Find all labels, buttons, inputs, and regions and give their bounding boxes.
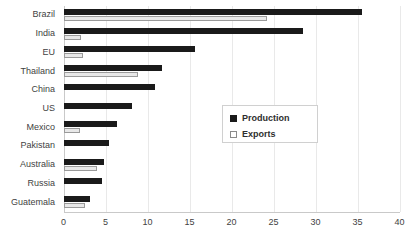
x-tick-label-15: 15 [175, 216, 205, 228]
x-tick-label-40: 40 [385, 216, 415, 228]
category-axis-labels: BrazilIndiaEUThailandChinaUSMexicoPakist… [0, 6, 59, 212]
category-band [64, 193, 400, 212]
category-label-us: US [0, 103, 55, 113]
bar-production-russia [64, 178, 103, 184]
category-band [64, 25, 400, 44]
category-band [64, 6, 400, 25]
bar-exports-australia [64, 166, 98, 171]
bar-production-pakistan [64, 140, 109, 146]
bar-exports-thailand [64, 72, 139, 77]
bar-exports-eu [64, 53, 83, 58]
category-label-guatemala: Guatemala [0, 197, 55, 207]
production-swatch-icon [230, 115, 237, 122]
legend-label-exports: Exports [242, 129, 276, 139]
category-label-thailand: Thailand [0, 66, 55, 76]
x-tick-label-10: 10 [133, 216, 163, 228]
x-tick-label-5: 5 [91, 216, 121, 228]
bar-production-eu [64, 46, 196, 52]
category-band [64, 43, 400, 62]
category-band [64, 156, 400, 175]
bar-chart: BrazilIndiaEUThailandChinaUSMexicoPakist… [0, 0, 415, 246]
bar-production-china [64, 84, 156, 90]
legend-label-production: Production [242, 113, 290, 123]
x-tick-label-30: 30 [301, 216, 331, 228]
exports-swatch-icon [230, 131, 237, 138]
category-label-russia: Russia [0, 178, 55, 188]
category-label-brazil: Brazil [0, 9, 55, 19]
gridline-40 [400, 6, 401, 212]
category-label-china: China [0, 84, 55, 94]
category-band [64, 175, 400, 194]
bar-production-australia [64, 159, 104, 165]
chart-legend: Production Exports [222, 105, 318, 143]
x-tick-label-0: 0 [49, 216, 79, 228]
category-label-mexico: Mexico [0, 122, 55, 132]
category-label-pakistan: Pakistan [0, 140, 55, 150]
bar-exports-guatemala [64, 203, 86, 208]
legend-item-production: Production [230, 111, 317, 125]
bar-production-thailand [64, 65, 162, 71]
category-label-eu: EU [0, 47, 55, 57]
x-tick-label-25: 25 [259, 216, 289, 228]
bar-production-guatemala [64, 196, 90, 202]
legend-item-exports: Exports [230, 127, 317, 141]
bar-production-mexico [64, 121, 118, 127]
bar-exports-mexico [64, 128, 81, 133]
bar-exports-brazil [64, 16, 267, 21]
category-band [64, 81, 400, 100]
category-label-india: India [0, 28, 55, 38]
bar-production-brazil [64, 9, 362, 15]
category-label-australia: Australia [0, 159, 55, 169]
bar-exports-india [64, 35, 82, 40]
category-band [64, 62, 400, 81]
x-tick-label-20: 20 [217, 216, 247, 228]
x-tick-label-35: 35 [343, 216, 373, 228]
bar-production-us [64, 103, 132, 109]
x-axis-line [64, 212, 400, 213]
bar-production-india [64, 28, 303, 34]
